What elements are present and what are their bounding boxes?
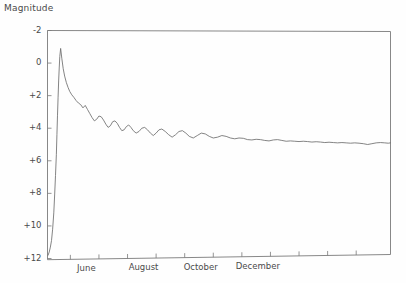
- y-tick-label: +10: [16, 220, 42, 230]
- data-series-group: [48, 48, 390, 255]
- y-tick-label: +12: [16, 253, 42, 263]
- y-tick-label: +6: [16, 155, 42, 165]
- light-curve-chart: Magnitude -20+2+4+6+8+10+12 JuneAugustOc…: [0, 0, 406, 283]
- plot-area: [0, 0, 406, 283]
- x-tick-label: August: [114, 262, 174, 272]
- y-tick-label: 0: [16, 57, 42, 67]
- plot-frame: [48, 31, 391, 260]
- y-tick-label: -2: [16, 25, 42, 35]
- y-tick-label: +8: [16, 187, 42, 197]
- x-tick-label: December: [228, 261, 288, 271]
- x-tick-label: June: [56, 263, 116, 273]
- y-tick-label: +2: [16, 90, 42, 100]
- y-axis-ticks: [48, 31, 52, 259]
- x-tick-label: October: [171, 262, 231, 272]
- y-tick-label: +4: [16, 122, 42, 132]
- x-axis-ticks: [70, 251, 356, 260]
